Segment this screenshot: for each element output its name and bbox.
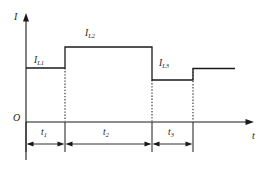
current-level-label-il1: IL1 (34, 56, 44, 66)
dimension-arrowhead-t2-left (66, 141, 73, 146)
waveform-trace (26, 47, 235, 80)
waveform-path (26, 47, 235, 80)
current-level-label-il3-sub: L3 (162, 62, 169, 69)
current-vs-time-step-waveform-figure: I t O IL1 IL2 IL3 t1 t2 t3 (0, 0, 275, 176)
x-axis-arrowhead (246, 119, 255, 125)
y-axis-label: I (14, 12, 17, 22)
x-axis (26, 119, 254, 125)
current-level-label-il3: IL3 (159, 59, 169, 69)
x-axis-label: t (252, 131, 255, 141)
dimension-arrow-t3 (153, 141, 193, 146)
interval-label-t3: t3 (168, 128, 174, 138)
current-level-label-il2: IL2 (85, 29, 95, 39)
projection-dotted-lines (65, 68, 193, 121)
current-level-label-il1-sub: L1 (37, 59, 44, 66)
dimension-arrowhead-t2-right (145, 141, 152, 146)
dimension-arrow-t2 (66, 141, 152, 146)
origin-label: O (13, 113, 20, 123)
interval-label-t1: t1 (41, 128, 47, 138)
dimension-arrow-t1 (27, 141, 65, 146)
interval-label-t1-sub: 1 (44, 131, 47, 138)
dimension-arrowhead-t1-left (27, 141, 34, 146)
interval-label-t3-sub: 3 (171, 131, 174, 138)
figure-canvas (0, 0, 275, 176)
current-level-label-il2-sub: L2 (88, 32, 95, 39)
dimension-arrowhead-t3-left (153, 141, 160, 146)
dimension-arrowhead-t1-right (58, 141, 65, 146)
interval-label-t2-sub: 2 (106, 131, 109, 138)
y-axis-arrowhead (23, 13, 29, 22)
dimension-arrowhead-t3-right (186, 141, 193, 146)
interval-label-t2: t2 (103, 128, 109, 138)
